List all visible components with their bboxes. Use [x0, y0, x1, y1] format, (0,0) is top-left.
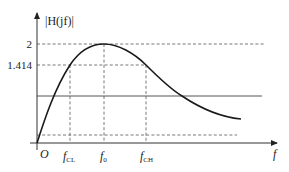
origin-label: O [40, 147, 49, 161]
fch-label: fCH [140, 149, 153, 164]
response-curve [37, 44, 241, 143]
fcl-label: fCL [63, 149, 75, 164]
bandpass-response-chart: |H(jf)| 2 1.414 O fCL f0 fCH f [0, 0, 289, 172]
tick-label-1414: 1.414 [7, 59, 32, 71]
x-axis-label: f [273, 147, 278, 161]
f0-label: f0 [100, 149, 107, 164]
y-axis-label: |H(jf)| [45, 14, 74, 28]
tick-label-2: 2 [27, 38, 33, 50]
